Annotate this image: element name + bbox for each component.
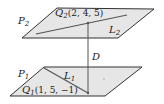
point-on-l2 [87, 22, 89, 24]
parallel-planes-diagram: P2 Q2(2, 4, 5) L2 D P1 L1 Q1(1, 5, −1) [0, 0, 164, 104]
label-d: D [91, 51, 100, 62]
plane-p1-dot [103, 78, 104, 79]
label-p2: P2 [17, 15, 30, 28]
point-on-l1 [87, 92, 89, 94]
label-p1: P1 [17, 68, 29, 81]
